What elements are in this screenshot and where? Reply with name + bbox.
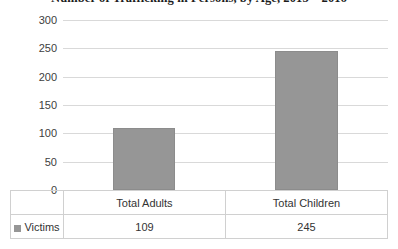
data-table: Total Adults Total Children Victims 109 … xyxy=(10,190,388,239)
gridline-150 xyxy=(63,105,388,106)
table-cell-value-total-children: 245 xyxy=(226,215,388,239)
table-header-total-children: Total Children xyxy=(226,191,388,215)
y-tick-label-100: 100 xyxy=(17,128,57,139)
gridline-300 xyxy=(63,20,388,21)
table-header-total-adults: Total Adults xyxy=(64,191,226,215)
table-row: Victims 109 245 xyxy=(11,215,388,239)
legend-label-victims: Victims xyxy=(24,221,59,233)
gridline-50 xyxy=(63,162,388,163)
category-label-total-adults: Total Adults xyxy=(116,197,172,209)
y-tick-label-200: 200 xyxy=(17,72,57,83)
table-header-row: Total Adults Total Children xyxy=(11,191,388,215)
square-marker-icon xyxy=(14,225,21,232)
chart-title: Number of Trafficking in Persons, by Age… xyxy=(0,0,398,7)
table-cell-value-total-adults: 109 xyxy=(64,215,226,239)
y-tick-label-50: 50 xyxy=(17,157,57,168)
gridline-250 xyxy=(63,48,388,49)
gridline-100 xyxy=(63,133,388,134)
category-label-total-children: Total Children xyxy=(273,197,340,209)
y-tick-label-300: 300 xyxy=(17,15,57,26)
gridline-200 xyxy=(63,77,388,78)
legend-entry-victims[interactable]: Victims xyxy=(11,215,64,239)
bar-total-adults[interactable] xyxy=(113,128,175,190)
plot-area xyxy=(63,20,388,190)
y-tick-label-150: 150 xyxy=(17,100,57,111)
bar-total-children[interactable] xyxy=(275,51,338,190)
table-corner-cell xyxy=(11,191,64,215)
y-tick-label-250: 250 xyxy=(17,43,57,54)
